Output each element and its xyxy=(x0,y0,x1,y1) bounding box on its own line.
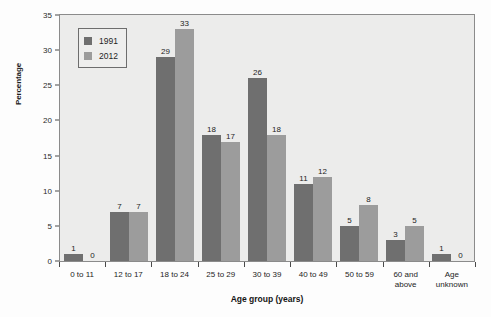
bar-group: 35 xyxy=(382,15,428,261)
bar-value-label: 17 xyxy=(226,132,235,142)
x-axis-tick-label: 25 to 29 xyxy=(198,270,244,290)
x-axis-tick-mark xyxy=(475,262,476,267)
bar-slot: 33 xyxy=(175,15,194,261)
bar-value-label: 11 xyxy=(299,174,307,184)
x-axis-tick-label: 18 to 24 xyxy=(151,270,197,290)
bar-group: 2618 xyxy=(244,15,290,261)
x-axis-tick-mark xyxy=(383,262,384,267)
legend-swatch-2012 xyxy=(84,52,92,60)
bar-value-label: 18 xyxy=(272,125,281,135)
bar-value-label: 5 xyxy=(347,216,351,226)
bar-slot: 0 xyxy=(451,15,470,261)
bar: 3 xyxy=(386,240,405,261)
bar-slot: 3 xyxy=(386,15,405,261)
bar-chart: Percentage 05101520253035 10772933181726… xyxy=(0,0,491,317)
x-axis-title: Age group (years) xyxy=(59,294,475,304)
bar-value-label: 0 xyxy=(458,251,462,261)
bar: 18 xyxy=(267,135,286,262)
bar-value-label: 3 xyxy=(393,230,397,240)
bar-group: 2933 xyxy=(152,15,198,261)
bar: 18 xyxy=(202,135,221,262)
bar: 5 xyxy=(405,226,424,261)
bar-value-label: 33 xyxy=(180,19,189,29)
bar: 7 xyxy=(129,212,148,261)
x-axis-tick-label: 12 to 17 xyxy=(105,270,151,290)
bar: 5 xyxy=(340,226,359,261)
bar-group: 1817 xyxy=(198,15,244,261)
x-axis-labels: 0 to 1112 to 1718 to 2425 to 2930 to 394… xyxy=(59,270,475,290)
legend: 1991 2012 xyxy=(78,28,127,68)
x-axis-tick-mark xyxy=(151,262,152,267)
bar-value-label: 8 xyxy=(366,195,370,205)
bar-group: 1112 xyxy=(290,15,336,261)
bar: 1 xyxy=(64,254,83,261)
bar: 33 xyxy=(175,29,194,261)
y-axis-tick-label: 30 xyxy=(43,46,52,55)
bar-value-label: 18 xyxy=(207,125,216,135)
y-axis-tick-label: 0 xyxy=(48,257,52,266)
x-axis-tick-mark xyxy=(59,262,60,267)
bar-group: 10 xyxy=(428,15,474,261)
bar-value-label: 7 xyxy=(117,202,121,212)
y-axis-ticks: 05101520253035 xyxy=(0,0,60,317)
bar-value-label: 0 xyxy=(90,251,94,261)
bar: 7 xyxy=(110,212,129,261)
x-axis-tick-label: 30 to 39 xyxy=(244,270,290,290)
x-axis-tick-mark xyxy=(290,262,291,267)
bar: 1 xyxy=(432,254,451,261)
x-axis-tick-mark xyxy=(429,262,430,267)
bar-group: 58 xyxy=(336,15,382,261)
bar-slot: 17 xyxy=(221,15,240,261)
y-axis-tick-label: 35 xyxy=(43,11,52,20)
bar: 8 xyxy=(359,205,378,261)
y-axis-tick-label: 25 xyxy=(43,81,52,90)
plot-area: 10772933181726181112583510 1991 2012 xyxy=(59,14,475,262)
bar-slot: 12 xyxy=(313,15,332,261)
legend-swatch-1991 xyxy=(84,37,92,45)
x-axis-tick-label: Ageunknown xyxy=(429,270,475,290)
bar-value-label: 5 xyxy=(412,216,416,226)
bar-slot: 7 xyxy=(129,15,148,261)
y-axis-tick-label: 10 xyxy=(43,186,52,195)
bar: 17 xyxy=(221,142,240,261)
x-axis-tick-mark xyxy=(336,262,337,267)
bar-value-label: 7 xyxy=(136,202,140,212)
legend-label-1991: 1991 xyxy=(99,36,118,46)
bar-slot: 18 xyxy=(202,15,221,261)
bar-slot: 18 xyxy=(267,15,286,261)
x-axis-tick-label: 40 to 49 xyxy=(290,270,336,290)
legend-label-2012: 2012 xyxy=(99,51,118,61)
bar: 26 xyxy=(248,78,267,261)
bar-slot: 8 xyxy=(359,15,378,261)
bar: 29 xyxy=(156,57,175,261)
y-axis-tick-label: 5 xyxy=(48,221,52,230)
x-axis-tick-label: 60 andabove xyxy=(383,270,429,290)
legend-item-1991: 1991 xyxy=(84,33,118,48)
bar-value-label: 29 xyxy=(161,47,170,57)
x-axis-tick-mark xyxy=(244,262,245,267)
bar-slot: 1 xyxy=(432,15,451,261)
bar-slot: 5 xyxy=(340,15,359,261)
bar: 12 xyxy=(313,177,332,261)
bar-slot: 29 xyxy=(156,15,175,261)
bar-value-label: 12 xyxy=(318,167,327,177)
x-axis-ticks xyxy=(59,262,475,268)
y-axis-tick-label: 15 xyxy=(43,151,52,160)
bar: 11 xyxy=(294,184,313,261)
legend-item-2012: 2012 xyxy=(84,48,118,63)
bar-value-label: 26 xyxy=(253,68,262,78)
y-axis-tick-label: 20 xyxy=(43,116,52,125)
bar-value-label: 1 xyxy=(71,244,75,254)
bar-slot: 5 xyxy=(405,15,424,261)
bar-value-label: 1 xyxy=(439,244,443,254)
bar-slot: 26 xyxy=(248,15,267,261)
x-axis-tick-mark xyxy=(105,262,106,267)
bar-slot: 11 xyxy=(294,15,313,261)
x-axis-tick-mark xyxy=(198,262,199,267)
x-axis-tick-label: 50 to 59 xyxy=(336,270,382,290)
x-axis-tick-label: 0 to 11 xyxy=(59,270,105,290)
